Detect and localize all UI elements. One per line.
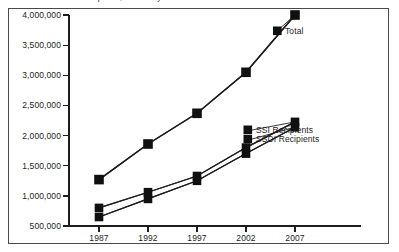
y-tick-label-1500000: 1,500,000 — [7, 161, 61, 171]
x-tick-label-1992: 1992 — [128, 233, 168, 243]
x-tick-label-2002: 2002 — [226, 233, 266, 243]
y-tick-label-3000000: 3,000,000 — [7, 70, 61, 80]
y-tick-label-3500000: 3,500,000 — [7, 40, 61, 50]
x-tick-marks — [99, 226, 295, 232]
y-tick-label-4000000: 4,000,000 — [7, 10, 61, 20]
chart-frame: 4,000,000 3,500,000 3,000,000 2,500,000 … — [8, 8, 389, 244]
x-tick-label-1987: 1987 — [79, 233, 119, 243]
x-tick-label-1997: 1997 — [177, 233, 217, 243]
y-tick-marks — [63, 15, 69, 226]
chart-figure: Chart 1. SSI and SSDI recipients, select… — [0, 0, 399, 252]
series-label-total: Total — [285, 26, 303, 36]
axes — [69, 15, 361, 226]
plot-area — [9, 9, 388, 243]
y-tick-label-2000000: 2,000,000 — [7, 131, 61, 141]
series-total — [94, 10, 300, 184]
y-tick-label-1000000: 1,000,000 — [7, 191, 61, 201]
y-tick-label-2500000: 2,500,000 — [7, 100, 61, 110]
series-label-ssdi: SSDI Recipients — [256, 134, 319, 144]
caption-text-cutoff: Chart 1. SSI and SSDI recipients, select… — [0, 0, 399, 2]
x-tick-label-2007: 2007 — [275, 233, 315, 243]
y-tick-label-500000: 500,000 — [7, 221, 61, 231]
